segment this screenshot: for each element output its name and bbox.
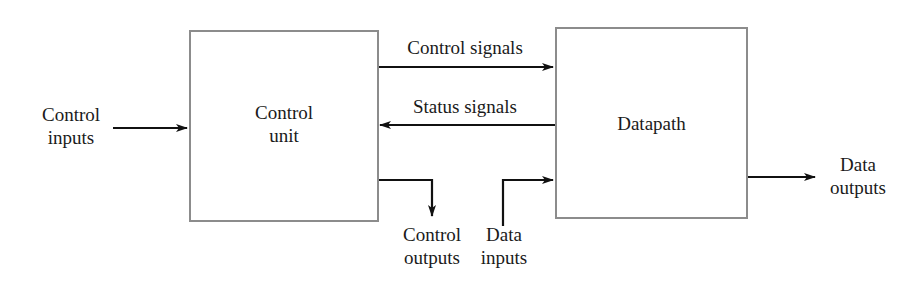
control-outputs-label-line1: Control	[394, 224, 470, 246]
data-outputs-label-line1: Data	[818, 154, 898, 176]
control-inputs-label-line1: Control	[36, 104, 106, 126]
status-signals-label: Status signals	[395, 96, 535, 118]
control-unit-label-line1: Control	[191, 102, 377, 124]
control-unit-label-line2: unit	[191, 125, 377, 147]
control-outputs-label-line2: outputs	[394, 247, 470, 269]
control-outputs-arrow	[379, 180, 432, 216]
control-inputs-label-line2: inputs	[36, 127, 106, 149]
data-inputs-label-line1: Data	[474, 224, 534, 246]
datapath-block: Datapath	[555, 27, 748, 219]
data-outputs-label-line2: outputs	[818, 177, 898, 199]
data-inputs-label-line2: inputs	[474, 247, 534, 269]
control-unit-block: Control unit	[189, 30, 379, 222]
datapath-label: Datapath	[557, 113, 746, 135]
data-inputs-arrow	[503, 180, 553, 226]
control-signals-label: Control signals	[390, 37, 540, 59]
